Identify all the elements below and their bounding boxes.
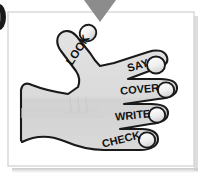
palm-shading-band: [21, 108, 104, 118]
graphic-canvas: LOOK SAY COVER WRITE CHECK: [0, 0, 208, 179]
fingertip-circle-cover: [158, 82, 174, 97]
fingertip-circle-say: [147, 57, 165, 74]
panel-drop-shadow-bottom: [12, 168, 198, 173]
fingertip-circle-write: [149, 107, 165, 122]
hand-diagram-illustration: LOOK SAY COVER WRITE CHECK: [0, 0, 208, 179]
